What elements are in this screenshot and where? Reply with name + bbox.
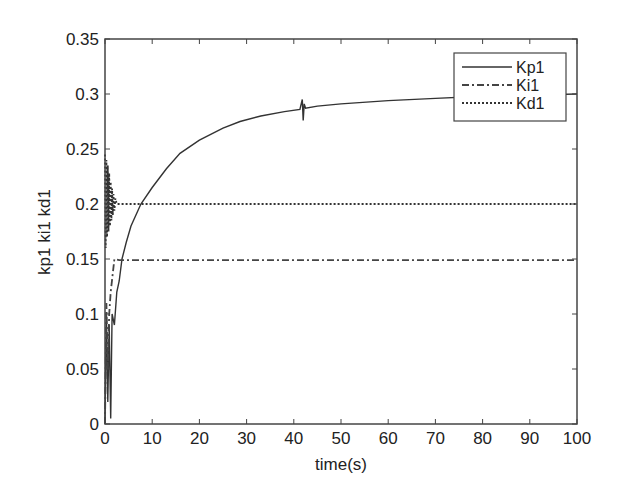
x-tick-label: 10 (143, 429, 162, 448)
x-tick-label: 0 (100, 429, 109, 448)
y-tick-label: 0.25 (66, 140, 99, 159)
y-tick-label: 0.3 (75, 85, 99, 104)
y-axis-label: kp1 ki1 kd1 (35, 189, 54, 275)
legend-label-kp1: Kp1 (516, 59, 545, 76)
y-tick-label: 0.35 (66, 30, 99, 49)
y-tick-label: 0.1 (75, 305, 99, 324)
chart-container: 0102030405060708090100 00.050.10.150.20.… (0, 0, 620, 499)
y-tick-label: 0.2 (75, 195, 99, 214)
x-axis-label: time(s) (315, 455, 367, 474)
x-tick-label: 70 (426, 429, 445, 448)
legend-label-ki1: Ki1 (516, 77, 539, 94)
y-tick-label: 0 (90, 415, 99, 434)
x-tick-label: 30 (237, 429, 256, 448)
x-tick-label: 40 (284, 429, 303, 448)
x-tick-label: 80 (473, 429, 492, 448)
y-tick-label: 0.15 (66, 250, 99, 269)
x-tick-label: 60 (379, 429, 398, 448)
legend-box (454, 53, 566, 121)
x-tick-label: 20 (190, 429, 209, 448)
line-chart: 0102030405060708090100 00.050.10.150.20.… (0, 0, 620, 499)
x-tick-label: 100 (563, 429, 591, 448)
y-tick-label: 0.05 (66, 360, 99, 379)
x-tick-label: 90 (520, 429, 539, 448)
x-tick-label: 50 (332, 429, 351, 448)
legend-label-kd1: Kd1 (516, 95, 545, 112)
legend: Kp1Ki1Kd1 (454, 53, 566, 121)
